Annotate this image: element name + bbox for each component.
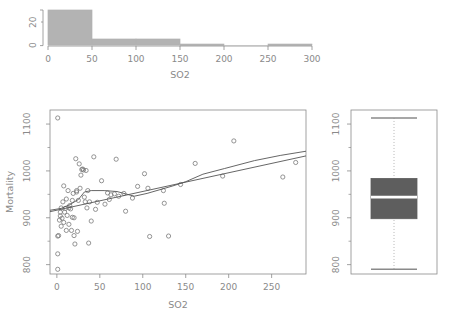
scatter-xtick-label: 100 — [134, 282, 151, 292]
linear-regression-line — [50, 156, 306, 212]
scatter-point — [93, 207, 97, 211]
scatter-point — [67, 222, 71, 226]
scatter-point — [62, 184, 66, 188]
scatter-point — [114, 157, 118, 161]
scatter-ytick-label: 1000 — [22, 159, 32, 182]
boxplot-box-group — [371, 118, 417, 269]
scatter-ytick-label: 900 — [22, 209, 32, 226]
histogram-bar — [180, 44, 224, 45]
scatter-point — [281, 175, 285, 179]
scatter-panel: 80090010001100 050100150200250 SO2 Morta… — [0, 100, 320, 324]
scatter-point — [75, 229, 79, 233]
scatter-point — [73, 242, 77, 246]
histogram-bar — [268, 44, 312, 45]
scatter-point — [56, 267, 60, 271]
scatter-point — [65, 213, 69, 217]
scatter-point — [77, 162, 81, 166]
scatter-ytick-label: 1100 — [22, 112, 32, 135]
histogram-xtick-label: 150 — [171, 54, 188, 64]
histogram-bar — [48, 10, 92, 45]
histogram-xtick-label: 200 — [215, 54, 232, 64]
histogram-bars — [48, 10, 312, 46]
histogram-xtick-label: 100 — [127, 54, 144, 64]
scatter-point — [78, 186, 82, 190]
histogram-y-axis: 0 20 — [28, 10, 43, 48]
boxplot-panel: 80090010001100 — [315, 100, 451, 324]
scatter-point — [103, 202, 107, 206]
scatter-point — [64, 197, 68, 201]
histogram-ytick-label: 0 — [28, 42, 38, 48]
scatter-point — [74, 157, 78, 161]
boxplot-svg: 80090010001100 — [315, 100, 451, 324]
boxplot-ytick-label: 1000 — [331, 159, 341, 182]
histogram-bar — [92, 39, 136, 45]
boxplot-y-axis: 80090010001100 — [331, 112, 351, 273]
scatter-points — [56, 116, 298, 272]
scatter-point — [162, 201, 166, 205]
loess-smoother-line — [50, 151, 306, 210]
scatter-x-axis: 050100150200250 — [54, 274, 280, 292]
scatter-point — [87, 241, 91, 245]
scatter-plot-frame — [50, 110, 306, 274]
histogram-x-axis-title: SO2 — [170, 69, 190, 80]
histogram-ytick-label: 20 — [28, 16, 38, 28]
scatter-point — [99, 179, 103, 183]
scatter-point — [166, 234, 170, 238]
scatter-point — [72, 233, 76, 237]
scatter-point — [64, 228, 68, 232]
scatter-xtick-label: 150 — [177, 282, 194, 292]
scatter-point — [62, 220, 66, 224]
scatter-point — [130, 196, 134, 200]
scatter-ytick-label: 800 — [22, 256, 32, 273]
scatter-y-axis: 80090010001100 — [22, 110, 50, 274]
histogram-x-axis: 0 50 100 150 200 250 300 — [45, 46, 321, 64]
histogram-xtick-label: 50 — [86, 54, 98, 64]
scatter-x-axis-title: SO2 — [168, 299, 188, 310]
scatter-point — [294, 160, 298, 164]
scatter-point — [92, 155, 96, 159]
scatter-point — [59, 224, 63, 228]
scatter-y-axis-title: Mortality — [4, 171, 15, 213]
scatter-point — [193, 161, 197, 165]
histogram-xtick-label: 250 — [259, 54, 276, 64]
scatter-xtick-label: 0 — [54, 282, 60, 292]
scatter-xtick-label: 250 — [263, 282, 280, 292]
histogram-xtick-label: 300 — [303, 54, 320, 64]
scatter-point — [142, 172, 146, 176]
boxplot-ytick-label: 900 — [331, 209, 341, 226]
boxplot-ytick-label: 1100 — [331, 112, 341, 135]
boxplot-ytick-label: 800 — [331, 256, 341, 273]
histogram-panel: 0 20 0 50 100 150 200 250 300 SO2 — [0, 0, 330, 82]
scatter-point — [82, 195, 86, 199]
scatter-point — [66, 188, 70, 192]
scatter-point — [148, 234, 152, 238]
scatter-point — [124, 209, 128, 213]
scatter-point — [85, 206, 89, 210]
histogram-svg: 0 20 0 50 100 150 200 250 300 SO2 — [0, 0, 330, 82]
scatter-xtick-label: 50 — [94, 282, 106, 292]
scatter-point — [136, 184, 140, 188]
scatter-point — [232, 139, 236, 143]
scatter-svg: 80090010001100 050100150200250 SO2 Morta… — [0, 100, 320, 324]
histogram-xtick-label: 0 — [45, 54, 51, 64]
scatter-xtick-label: 200 — [220, 282, 237, 292]
scatter-point — [56, 116, 60, 120]
scatter-point — [79, 173, 83, 177]
scatter-point — [89, 219, 93, 223]
scatter-point — [56, 252, 60, 256]
boxplot-box — [371, 178, 417, 218]
histogram-bar — [136, 39, 180, 45]
scatter-point — [69, 228, 73, 232]
